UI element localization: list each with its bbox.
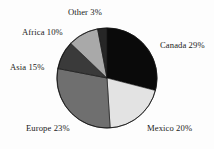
pie-label-mexico: Mexico 20% bbox=[147, 124, 192, 133]
pie-chart-figure: Canada 29% Mexico 20% Europe 23% Asia 15… bbox=[0, 0, 214, 149]
pie-slice-europe[interactable] bbox=[57, 69, 110, 128]
pie-label-asia: Asia 15% bbox=[10, 63, 44, 72]
pie-label-other: Other 3% bbox=[68, 8, 102, 17]
pie-label-africa: Africa 10% bbox=[22, 28, 63, 37]
pie-label-canada: Canada 29% bbox=[160, 41, 205, 50]
pie-label-europe: Europe 23% bbox=[26, 124, 70, 133]
